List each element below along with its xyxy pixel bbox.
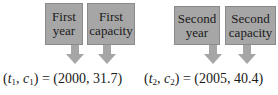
first-year-label-box: Firstyear	[45, 3, 83, 45]
second-capacity-line1: Second	[231, 11, 269, 26]
point2-c-value: 40.4	[234, 71, 259, 86]
second-capacity-line2: capacity	[229, 25, 272, 40]
second-capacity-label-box: Secondcapacity	[225, 6, 276, 45]
first-capacity-line1: First	[99, 9, 123, 24]
arrow-down-icon	[98, 45, 116, 64]
first-capacity-line2: capacity	[89, 23, 132, 38]
point2-equation: (t2, c2) = (2005, 40.4)	[144, 71, 263, 87]
first-year-line2: year	[53, 23, 75, 38]
point1-c-value: 31.7	[93, 71, 118, 86]
second-year-line1: Second	[178, 11, 216, 26]
arrow-down-icon	[238, 45, 256, 64]
arrow-down-icon	[204, 45, 222, 64]
point1-t-value: 2000	[58, 71, 86, 86]
second-year-line2: year	[186, 25, 208, 40]
point2-t-value: 2005	[199, 71, 227, 86]
first-capacity-label-box: Firstcapacity	[87, 3, 135, 45]
arrow-down-icon	[66, 45, 84, 64]
point1-equation: (t1, c1) = (2000, 31.7)	[3, 71, 122, 87]
second-year-label-box: Secondyear	[174, 6, 220, 45]
first-year-line1: First	[52, 9, 76, 24]
